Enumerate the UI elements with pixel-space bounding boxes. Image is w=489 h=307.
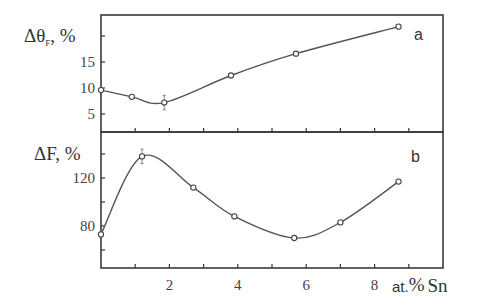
data-point-b xyxy=(338,220,343,225)
data-point-b xyxy=(292,235,297,240)
data-point-a xyxy=(228,73,233,78)
data-point-a xyxy=(293,51,298,56)
x-tick-label: 6 xyxy=(302,277,310,293)
data-point-a xyxy=(396,24,401,29)
plot-frames xyxy=(101,15,443,268)
data-point-b xyxy=(396,179,401,184)
y-axis-label-a: ΔθF, % xyxy=(24,25,76,48)
y-tick-label-b: 120 xyxy=(73,170,96,186)
y-tick-label-a: 5 xyxy=(88,106,96,122)
curve-a xyxy=(101,27,399,104)
x-tick-label: 8 xyxy=(371,277,379,293)
y-tick-label-a: 15 xyxy=(80,54,95,70)
y-tick-label-a: 10 xyxy=(80,80,95,96)
curve-b xyxy=(101,155,399,238)
axis-ticks xyxy=(101,36,409,268)
y-axis-label-b: ΔF, % xyxy=(34,143,81,164)
data-point-b xyxy=(232,214,237,219)
figure: 51015801202468 ΔθF, % ΔF, % a b at.%Sn xyxy=(0,0,489,307)
data-point-b xyxy=(98,232,103,237)
x-tick-label: 4 xyxy=(234,277,242,293)
data-point-b xyxy=(191,185,196,190)
axis-tick-labels: 51015801202468 xyxy=(73,54,379,293)
data-point-a xyxy=(129,94,134,99)
data-point-a xyxy=(162,100,167,105)
panel-label-b: b xyxy=(411,148,420,165)
x-tick-label: 2 xyxy=(166,277,174,293)
y-tick-label-b: 80 xyxy=(80,218,95,234)
plot-area-a xyxy=(101,15,443,132)
data-point-a xyxy=(98,87,103,92)
panel-label-a: a xyxy=(414,26,423,43)
x-axis-label: at.%Sn xyxy=(392,274,448,296)
data-point-b xyxy=(139,154,144,159)
plot-area-b xyxy=(101,132,443,268)
